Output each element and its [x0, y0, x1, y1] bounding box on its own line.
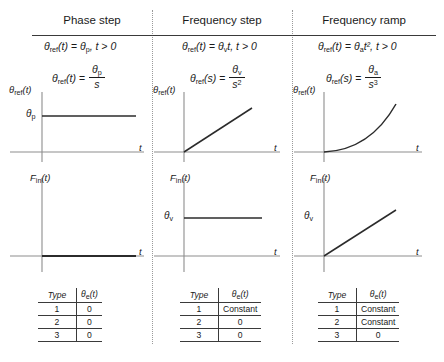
equation-time-domain-col1: θref(t) = θp, t > 0 [44, 40, 116, 54]
cell-error: 0 [219, 328, 262, 341]
lap1-numerator: θp [89, 63, 105, 77]
cell-error: Constant [357, 315, 400, 328]
th-error-col3: θe(t) [357, 288, 400, 302]
plot-fin-col2-ylabel: Fin(t) [170, 172, 190, 185]
column-title-phase-step: Phase step [32, 12, 152, 28]
cell-error: 0 [77, 302, 102, 315]
cell-type: 2 [318, 315, 357, 328]
table-row: 3 0 [180, 328, 261, 341]
cell-error: 0 [77, 315, 102, 328]
table-row: 2 0 [180, 315, 261, 328]
cell-type: 1 [38, 302, 77, 315]
plot-fin-col2: Fin(t) θv t [152, 168, 292, 278]
plot-fin-col1-xlabel: t [139, 246, 142, 257]
cell-type: 3 [318, 328, 357, 341]
cell-type: 2 [180, 315, 219, 328]
plot-fin-col1: Fin(t) t [8, 168, 152, 278]
plot-theta-ref-col1-svg [8, 86, 152, 164]
error-table-col3: Type θe(t) 1 Constant 2 Constant 3 0 [318, 288, 399, 342]
cell-type: 3 [180, 328, 219, 341]
table-header-row: Type θe(t) [318, 288, 399, 302]
th-type-col1: Type [38, 288, 77, 302]
plot-fin-col2-xlabel: t [274, 246, 277, 257]
plot-fin-col3-xlabel: t [416, 246, 419, 257]
header-rule [32, 35, 436, 36]
plot-fin-col1-ylabel: Fin(t) [30, 172, 50, 185]
plot-fin-col3: Fin(t) θv t [292, 168, 440, 278]
lap1-sub: ref [58, 77, 66, 86]
cell-error: Constant [219, 302, 262, 315]
cell-type: 2 [38, 315, 77, 328]
column-title-frequency-step: Frequency step [152, 12, 292, 28]
cell-error: 0 [77, 328, 102, 341]
th-error-col2: θe(t) [219, 288, 262, 302]
plot-theta-ref-col2-svg [152, 86, 292, 164]
table-header-row: Type θe(t) [38, 288, 102, 302]
cell-type: 1 [318, 302, 357, 315]
th-error-col1: θe(t) [77, 288, 102, 302]
table-row: 1 Constant [180, 302, 261, 315]
th-type-col2: Type [180, 288, 219, 302]
cell-error: 0 [357, 328, 400, 341]
plot-fin-col3-ylabel: Fin(t) [310, 172, 330, 185]
eq1-sub: ref [50, 45, 58, 54]
column-title-frequency-ramp: Frequency ramp [292, 12, 436, 28]
equation-time-domain-col2: θref(t) = θvt, t > 0 [182, 40, 257, 54]
figure-canvas: Phase step Frequency step Frequency ramp… [0, 0, 444, 362]
table-row: 1 0 [38, 302, 102, 315]
plot-theta-ref-col3: θref(t) t [292, 86, 440, 164]
table-row: 1 Constant [318, 302, 399, 315]
plot-col1-ytick: θp [26, 108, 35, 121]
eq1-equals: = [71, 40, 77, 52]
plot-theta-ref-col2: θref(t) t [152, 86, 292, 164]
plot-col1-ylabel: θref(t) [9, 84, 32, 97]
cell-error: Constant [357, 302, 400, 315]
equation-time-domain-col3: θref(t) = θat², t > 0 [318, 40, 397, 54]
lap1-arg: (t) [66, 72, 76, 84]
table-header-row: Type θe(t) [180, 288, 261, 302]
plot-col2-ylabel: θref(t) [153, 84, 176, 97]
error-table-col1: Type θe(t) 1 0 2 0 3 0 [38, 288, 102, 342]
table-row: 3 0 [38, 328, 102, 341]
plot-col2-xlabel: t [274, 142, 277, 153]
cell-type: 1 [180, 302, 219, 315]
cell-type: 3 [38, 328, 77, 341]
cell-error: 0 [219, 315, 262, 328]
plot-col3-xlabel: t [416, 142, 419, 153]
table-row: 2 0 [38, 315, 102, 328]
plot-fin-col3-ytick: θv [304, 210, 313, 223]
error-table-col2: Type θe(t) 1 Constant 2 0 3 0 [180, 288, 261, 342]
plot-col1-xlabel: t [139, 142, 142, 153]
plot-col3-ylabel: θref(t) [293, 84, 316, 97]
table-row: 2 Constant [318, 315, 399, 328]
th-type-col3: Type [318, 288, 357, 302]
plot-fin-col2-ytick: θv [164, 210, 173, 223]
eq1-tail: , t > 0 [90, 40, 117, 52]
table-row: 3 0 [318, 328, 399, 341]
plot-theta-ref-col1: θref(t) θp t [8, 86, 152, 164]
eq1-arg: (t) [58, 40, 68, 52]
